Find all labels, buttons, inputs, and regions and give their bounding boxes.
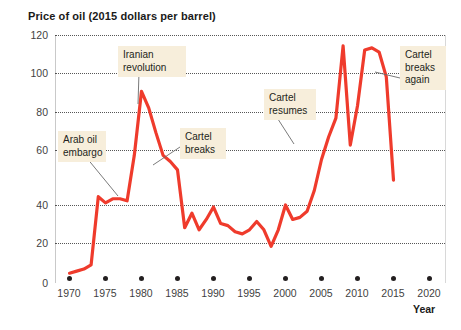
x-tick-label-2005: 2005 — [301, 287, 341, 299]
x-tick-label-2000: 2000 — [265, 287, 305, 299]
x-tick-dot-1970 — [67, 276, 72, 281]
x-tick-dot-1980 — [139, 276, 144, 281]
x-tick-dot-2000 — [283, 276, 288, 281]
x-tick-dot-1995 — [247, 276, 252, 281]
annotation-iranian-revolution: Iranian revolution — [118, 46, 186, 77]
annotation-cartel-breaks: Cartel breaks — [180, 128, 226, 159]
x-tick-label-2010: 2010 — [337, 287, 377, 299]
x-tick-label-2020: 2020 — [409, 287, 449, 299]
x-tick-dot-2010 — [355, 276, 360, 281]
x-tick-dot-1975 — [103, 276, 108, 281]
x-tick-label-1980: 1980 — [121, 287, 161, 299]
x-tick-label-1985: 1985 — [157, 287, 197, 299]
x-tick-dot-2015 — [391, 276, 396, 281]
annotation-cartel-breaks-again: Cartel breaks again — [400, 46, 446, 90]
x-tick-label-1970: 1970 — [49, 287, 89, 299]
x-tick-label-1990: 1990 — [193, 287, 233, 299]
oil-price-line — [70, 46, 394, 273]
x-tick-dot-2020 — [427, 276, 432, 281]
x-tick-label-2015: 2015 — [373, 287, 413, 299]
annotation-cartel-resumes: Cartel resumes — [264, 89, 316, 120]
annotation-arab-oil-embargo: Arab oil embargo — [58, 131, 106, 162]
x-tick-label-1975: 1975 — [85, 287, 125, 299]
x-tick-dot-2005 — [319, 276, 324, 281]
x-tick-label-1995: 1995 — [229, 287, 269, 299]
oil-price-chart: Price of oil (2015 dollars per barrel) 1… — [0, 0, 461, 330]
x-axis-title: Year — [413, 303, 435, 315]
x-tick-dot-1990 — [211, 276, 216, 281]
x-tick-dot-1985 — [175, 276, 180, 281]
